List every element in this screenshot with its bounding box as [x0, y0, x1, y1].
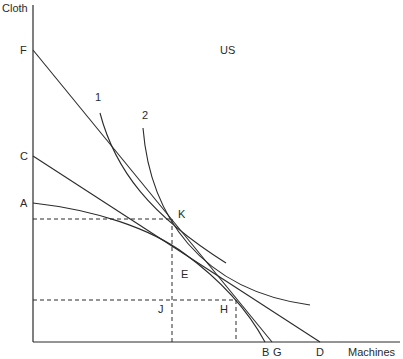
point-label-e: E: [181, 269, 188, 280]
y-axis-label: Cloth: [2, 3, 28, 14]
point-label-f: F: [20, 45, 27, 56]
curve-label-2: 2: [142, 110, 148, 121]
point-label-c: C: [20, 151, 28, 162]
curve-label-1: 1: [95, 92, 101, 103]
price-line-cd: [33, 156, 320, 342]
price-line-fg: [33, 50, 272, 342]
point-label-g: G: [273, 347, 282, 358]
diagram-canvas: [0, 0, 403, 359]
point-label-a: A: [20, 198, 27, 209]
point-label-h: H: [220, 304, 228, 315]
point-label-j: J: [158, 304, 164, 315]
point-label-d: D: [316, 347, 324, 358]
point-label-k: K: [178, 209, 185, 220]
country-label: US: [220, 45, 235, 56]
point-label-b: B: [262, 347, 269, 358]
ppf-curve-ab: [33, 203, 265, 342]
indifference-curve-2: [143, 128, 310, 305]
x-axis-label: Machines: [348, 347, 395, 358]
